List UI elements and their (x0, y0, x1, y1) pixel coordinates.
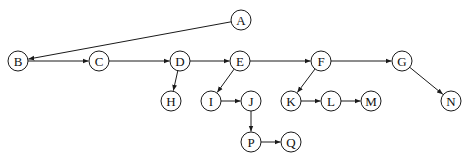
node-label: P (247, 135, 254, 150)
node-label: M (365, 94, 377, 109)
node-label: B (14, 54, 23, 69)
node-q: Q (281, 132, 301, 152)
node-label: H (166, 94, 175, 109)
node-label: J (248, 94, 253, 109)
node-label: Q (286, 135, 296, 150)
node-n: N (441, 91, 461, 111)
node-label: C (95, 54, 104, 69)
node-label: K (286, 94, 296, 109)
edge-a-b (28, 22, 231, 59)
nodes-layer: ABCDEFGHIJKLMNPQ (8, 10, 461, 152)
node-label: N (446, 94, 456, 109)
node-e: E (230, 51, 250, 71)
node-g: G (392, 51, 412, 71)
graph-svg: ABCDEFGHIJKLMNPQ (0, 0, 473, 163)
node-label: F (317, 54, 324, 69)
node-c: C (89, 51, 109, 71)
edge-g-n (410, 67, 443, 94)
node-i: I (201, 91, 221, 111)
node-f: F (311, 51, 331, 71)
node-label: D (175, 54, 184, 69)
node-label: I (209, 94, 213, 109)
node-label: E (236, 54, 244, 69)
edge-f-k (297, 69, 315, 93)
edge-e-i (217, 69, 234, 92)
node-b: B (8, 51, 28, 71)
node-label: A (236, 13, 246, 28)
edges-layer (28, 22, 443, 142)
edge-d-h (173, 71, 178, 91)
node-label: G (397, 54, 406, 69)
node-a: A (231, 10, 251, 30)
node-h: H (161, 91, 181, 111)
node-m: M (361, 91, 381, 111)
node-j: J (241, 91, 261, 111)
node-k: K (281, 91, 301, 111)
node-l: L (321, 91, 341, 111)
node-d: D (170, 51, 190, 71)
graph-diagram: ABCDEFGHIJKLMNPQ (0, 0, 473, 163)
node-label: L (327, 94, 335, 109)
node-p: P (241, 132, 261, 152)
